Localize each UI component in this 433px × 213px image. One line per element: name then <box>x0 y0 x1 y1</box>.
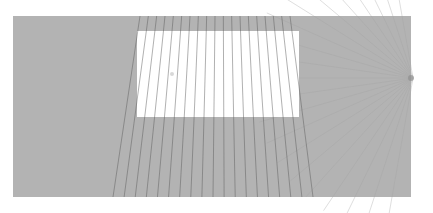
white-card <box>137 31 299 117</box>
photo-illustration <box>0 0 433 213</box>
image-scene: Abstract photographic image: a gray fiel… <box>0 0 433 213</box>
convergence-point <box>408 75 414 81</box>
faint-mark <box>170 72 174 76</box>
